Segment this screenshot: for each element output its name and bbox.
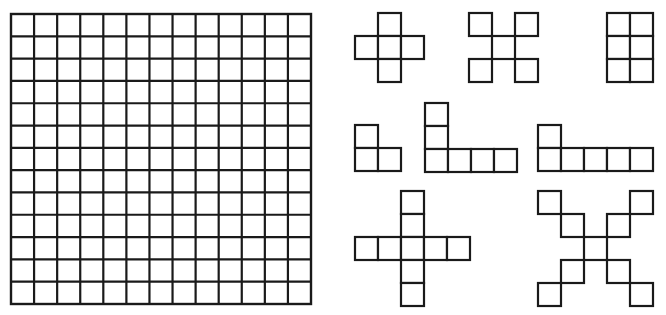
piece-cell — [425, 149, 448, 172]
piece-cell — [469, 13, 492, 36]
piece-cell — [607, 214, 630, 237]
piece-cell — [425, 103, 448, 126]
piece-cell — [401, 283, 424, 306]
piece-cell — [401, 260, 424, 283]
small-x-pentomino — [469, 13, 538, 82]
piece-cell — [584, 148, 607, 171]
board-frame — [11, 14, 311, 304]
piece-cell — [378, 13, 401, 36]
piece-cell — [378, 237, 401, 260]
piece-cell — [561, 260, 584, 283]
piece-cell — [630, 283, 653, 306]
large-x-nonomino — [538, 191, 653, 306]
polyomino-pieces — [355, 13, 653, 306]
piece-cell — [401, 36, 424, 59]
tall-l-hexomino — [425, 103, 517, 172]
piece-cell — [538, 125, 561, 148]
piece-cell — [538, 283, 561, 306]
piece-cell — [494, 149, 517, 172]
piece-cell — [355, 148, 378, 171]
large-plus-nonomino — [355, 191, 470, 306]
piece-cell — [355, 36, 378, 59]
piece-cell — [469, 59, 492, 82]
piece-cell — [630, 148, 653, 171]
piece-cell — [538, 148, 561, 171]
piece-cell — [401, 214, 424, 237]
piece-cell — [630, 13, 653, 36]
piece-cell — [630, 59, 653, 82]
piece-cell — [424, 237, 447, 260]
piece-cell — [378, 148, 401, 171]
piece-cell — [401, 237, 424, 260]
piece-cell — [561, 214, 584, 237]
piece-cell — [355, 125, 378, 148]
puzzle-canvas — [0, 0, 666, 315]
piece-cell — [471, 149, 494, 172]
piece-cell — [630, 191, 653, 214]
rectangle-2x3 — [607, 13, 653, 82]
piece-cell — [355, 237, 378, 260]
piece-cell — [630, 36, 653, 59]
long-l-hexomino — [538, 125, 653, 171]
puzzle-figure — [0, 0, 666, 315]
piece-cell — [538, 191, 561, 214]
piece-cell — [607, 260, 630, 283]
piece-cell — [378, 36, 401, 59]
small-l-tromino — [355, 125, 401, 171]
piece-cell — [401, 191, 424, 214]
piece-cell — [515, 59, 538, 82]
piece-cell — [425, 126, 448, 149]
piece-cell — [448, 149, 471, 172]
piece-cell — [607, 148, 630, 171]
piece-cell — [607, 13, 630, 36]
small-plus-pentomino — [355, 13, 424, 82]
piece-cell — [515, 13, 538, 36]
piece-cell — [492, 36, 515, 59]
piece-cell — [378, 59, 401, 82]
piece-cell — [584, 237, 607, 260]
piece-cell — [607, 59, 630, 82]
piece-cell — [607, 36, 630, 59]
square-grid-board — [11, 14, 311, 304]
piece-cell — [561, 148, 584, 171]
piece-cell — [447, 237, 470, 260]
